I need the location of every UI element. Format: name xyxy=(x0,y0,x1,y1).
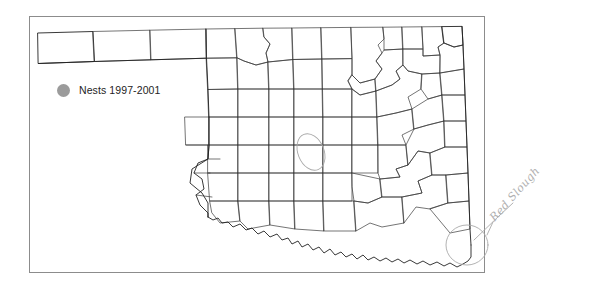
legend-label: Nests 1997-2001 xyxy=(79,84,160,97)
figure-root: Nests 1997-2001 Red Slough xyxy=(0,0,590,291)
map-frame xyxy=(29,16,485,273)
red-slough-annotation-label: Red Slough xyxy=(487,164,542,223)
oklahoma-county-map[interactable] xyxy=(30,17,486,274)
nest-marker-swatch-icon xyxy=(57,84,70,97)
red-slough-leader-tick xyxy=(487,222,493,235)
map-legend: Nests 1997-2001 xyxy=(57,84,160,97)
